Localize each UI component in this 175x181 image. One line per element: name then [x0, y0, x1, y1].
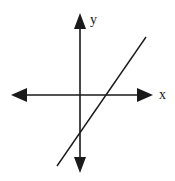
x-axis-label: x	[159, 87, 166, 102]
figure-root: y x	[0, 0, 175, 181]
y-axis-label: y	[90, 12, 97, 27]
coordinate-plane-graphic: y x	[0, 0, 175, 181]
